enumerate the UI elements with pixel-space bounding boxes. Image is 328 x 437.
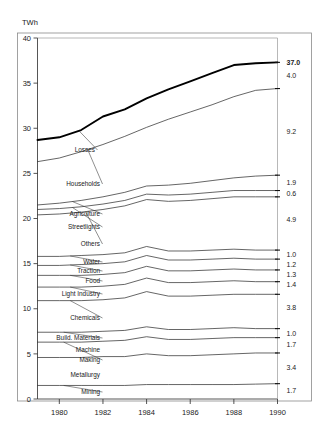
x-tick-label: 1982	[95, 408, 112, 417]
series-curve-food	[38, 266, 278, 275]
right-value-machine-making: 1.7	[287, 341, 297, 348]
right-value-chemicals: 3.8	[287, 304, 297, 311]
series-leader-line	[88, 150, 103, 184]
y-tick-label: 35	[23, 79, 31, 88]
series-label-chemicals: Chemicals	[70, 314, 100, 321]
series-label-losses: Losses	[75, 146, 95, 153]
series-curve-light-industry	[38, 278, 278, 287]
right-value-households: 9.2	[287, 128, 297, 135]
x-tick-label: 1980	[51, 408, 68, 417]
series-label-traction: Traction	[77, 267, 100, 274]
x-tick-label: 1986	[182, 408, 199, 417]
series-curve-build-materials	[38, 327, 278, 332]
right-value-agriculture: 1.9	[287, 179, 297, 186]
series-label-households: Households	[66, 180, 100, 187]
right-value-traction: 1.2	[287, 261, 297, 268]
y-tick-label: 20	[23, 214, 31, 223]
y-tick-label: 0	[27, 395, 31, 404]
series-curve-traction	[38, 256, 278, 266]
y-tick-label: 30	[23, 124, 31, 133]
series-curve-mining	[38, 384, 278, 386]
right-value-mining: 1.7	[287, 387, 297, 394]
y-axis-unit-label: TWh	[22, 18, 38, 27]
series-curve-metallurgy	[38, 353, 278, 358]
series-label-others: Others	[81, 240, 100, 247]
y-tick-label: 15	[23, 259, 31, 268]
axis-lines	[38, 38, 278, 399]
series-curve-households	[38, 89, 278, 162]
right-value-build-materials: 1.0	[287, 330, 297, 337]
series-curve-streetlights	[38, 191, 278, 210]
cumulative-energy-chart: TWh4035302520151050198019821984198619881…	[0, 0, 328, 437]
series-curve-water	[38, 246, 278, 256]
series-label-metallurgy: Metallurgy	[71, 371, 101, 379]
x-tick-label: 1988	[226, 408, 243, 417]
chart-svg: TWh4035302520151050198019821984198619881…	[0, 0, 328, 437]
right-value-water: 1.0	[287, 251, 297, 258]
right-value-streetlights: 0.6	[287, 190, 297, 197]
series-label-making: Making	[79, 356, 100, 364]
y-tick-label: 5	[27, 350, 31, 359]
right-value-food: 1.3	[287, 271, 297, 278]
series-label-build-materials: Build. Materials	[56, 334, 100, 341]
x-tick-label: 1990	[269, 408, 286, 417]
total-value: 37.0	[287, 59, 301, 66]
right-value-light-industry: 1.4	[287, 281, 297, 288]
y-tick-label: 25	[23, 169, 31, 178]
series-label-light-industry: Light Industry	[62, 290, 101, 298]
series-curve-losses	[38, 62, 278, 140]
right-value-losses: 4.0	[287, 72, 297, 79]
chart-outer-frame	[18, 33, 312, 401]
y-tick-label: 10	[23, 304, 31, 313]
right-value-others: 4.9	[287, 216, 297, 223]
series-label-mining: Mining	[81, 388, 100, 396]
y-tick-label: 40	[23, 34, 31, 43]
x-tick-label: 1984	[138, 408, 155, 417]
right-value-metallurgy: 3.4	[287, 364, 297, 371]
